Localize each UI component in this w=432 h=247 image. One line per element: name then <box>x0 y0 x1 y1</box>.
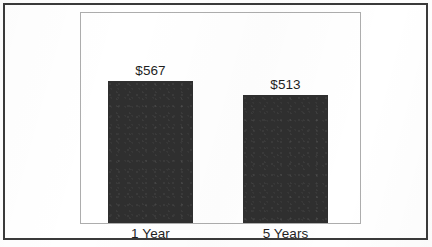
bar-chart-figure: $567 $513 1 Year 5 Years <box>0 0 432 247</box>
bar-value-label-5-years: $513 <box>243 77 328 92</box>
category-label-1-year: 1 Year <box>107 226 194 241</box>
chart-outer-frame: $567 $513 1 Year 5 Years <box>3 3 428 240</box>
bar-value-label-1-year: $567 <box>108 63 193 78</box>
bar-5-years <box>243 95 328 223</box>
bar-1-year <box>108 81 193 223</box>
category-label-5-years: 5 Years <box>242 226 329 241</box>
plot-area: $567 $513 <box>80 12 361 224</box>
